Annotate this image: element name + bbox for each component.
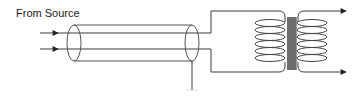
primary-coil: [255, 20, 285, 62]
shielded-cable: [67, 25, 199, 61]
cable-shield-right-end: [185, 25, 199, 61]
cable-shield-left-end: [67, 25, 81, 61]
transformer-core: [287, 17, 296, 70]
primary-leads: [211, 11, 285, 72]
transformer-diagram: From Source: [0, 0, 361, 98]
circuit-drawing: [0, 0, 361, 98]
output-wire-bottom: [298, 62, 346, 72]
secondary-coil: [297, 20, 327, 62]
shield-ground-lead: [186, 61, 198, 90]
